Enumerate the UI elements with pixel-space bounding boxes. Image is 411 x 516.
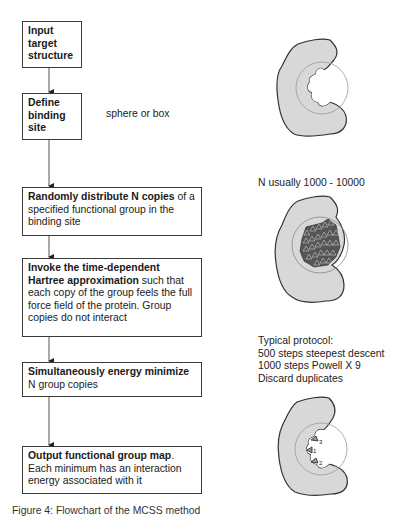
figure-caption: Figure 4: Flowchart of the MCSS method [12,505,200,516]
step-output: Output functional group map. Each minimu… [22,446,202,494]
protocol-title: Typical protocol: [258,335,385,348]
protein-binding-site-figure [270,30,370,145]
protocol-line: Discard duplicates [258,373,385,386]
note-protocol: Typical protocol: 500 steps steepest des… [258,335,385,385]
step-title: Randomly distribute N copies [28,191,175,202]
step-input-target: Input target structure [22,21,82,68]
protocol-line: 1000 steps Powell X 9 [258,360,385,373]
step-define-site: Define binding site [22,93,82,140]
step-text: N group copies [28,379,98,390]
step-distribute: Randomly distribute N copies of a specif… [22,187,202,236]
step-title: Define binding site [28,97,66,133]
note-n-copies: N usually 1000 - 10000 [258,177,365,190]
protein-minima-figure: 3 1 2 [275,394,365,499]
protein-random-copies-figure [270,195,370,315]
step-title: Output functional group map [28,450,171,461]
step-hartree: Invoke the time-dependent Hartree approx… [22,258,202,337]
step-title: Simultaneously energy minimize [28,366,189,377]
protocol-line: 500 steps steepest descent [258,348,385,361]
step-title: Input target structure [28,25,73,61]
note-binding-site: sphere or box [106,108,170,121]
step-minimize: Simultaneously energy minimize N group c… [22,362,202,397]
